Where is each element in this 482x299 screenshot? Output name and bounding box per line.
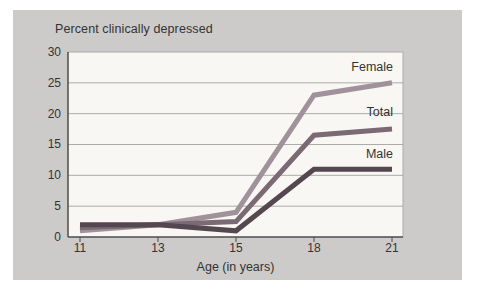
x-axis-title: Age (in years)	[68, 260, 403, 274]
y-axis-tick-label: 15	[29, 137, 61, 151]
x-axis-tick-label: 15	[218, 241, 254, 255]
y-axis-tick-label: 30	[29, 45, 61, 59]
x-axis-tick-label: 13	[140, 241, 176, 255]
y-axis-tick-label: 10	[29, 168, 61, 182]
x-axis-tick-label: 18	[296, 241, 332, 255]
chart-panel: Percent clinically depressed 30 25 20 15…	[13, 10, 462, 280]
y-axis-tick-label: 20	[29, 107, 61, 121]
series-label-female: Female	[331, 60, 393, 75]
y-axis-tick-label: 0	[29, 230, 61, 244]
chart-canvas	[13, 10, 462, 280]
y-axis-tick-label: 25	[29, 76, 61, 90]
figure-page: Percent clinically depressed 30 25 20 15…	[0, 0, 482, 299]
series-label-total: Total	[331, 105, 393, 120]
series-label-male: Male	[331, 147, 393, 162]
x-axis-tick-label: 21	[374, 241, 410, 255]
y-axis-tick-label: 5	[29, 199, 61, 213]
x-axis-tick-label: 11	[62, 241, 98, 255]
